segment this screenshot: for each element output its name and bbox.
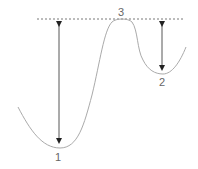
energy-barrier-diagram: 3 1 2	[0, 0, 198, 169]
label-point-2: 2	[159, 76, 165, 88]
label-point-3: 3	[118, 6, 124, 18]
label-point-1: 1	[55, 151, 61, 163]
